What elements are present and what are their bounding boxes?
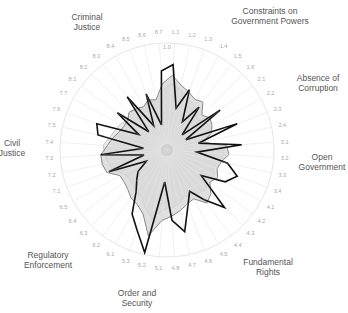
- ring-value-label: 1.0: [163, 44, 171, 50]
- spoke-label: 3.3: [278, 172, 286, 178]
- category-label: Order andSecurity: [118, 288, 157, 308]
- spoke-label: 4.5: [220, 251, 228, 257]
- category-label: CivilJustice: [0, 138, 25, 158]
- spoke-label: 8.6: [138, 32, 146, 38]
- category-label: OpenGovernment: [299, 152, 346, 172]
- spoke-label: 6.1: [107, 251, 115, 257]
- spoke-label: 4.2: [258, 218, 266, 224]
- spoke-label: 6.4: [69, 218, 77, 224]
- spoke-label: 7.3: [45, 155, 53, 161]
- spoke-label: 3.1: [281, 139, 289, 145]
- spoke-label: 8.7: [155, 29, 163, 35]
- spoke-label: 1.3: [204, 36, 212, 42]
- spoke-label: 4.8: [172, 265, 180, 271]
- spoke-label: 2.4: [278, 122, 286, 128]
- spoke-label: 1.4: [220, 43, 228, 49]
- spoke-label: 3.2: [281, 155, 289, 161]
- spoke-label: 7.5: [48, 122, 56, 128]
- category-label: RegulatoryEnforcement: [24, 250, 73, 270]
- spoke-label: 4.6: [204, 258, 212, 264]
- spoke-label: 4.7: [188, 262, 196, 268]
- center-dot: [161, 144, 173, 156]
- spoke-label: 6.3: [80, 230, 88, 236]
- spoke-label: 4.4: [234, 242, 242, 248]
- spoke-label: 1.5: [234, 53, 242, 59]
- category-label: FundamentalRights: [243, 257, 293, 277]
- spoke-label: 1.1: [172, 29, 180, 35]
- spoke-label: 1.6: [247, 64, 255, 70]
- category-label: Absence ofCorruption: [297, 73, 340, 93]
- spoke-label: 7.1: [53, 188, 61, 194]
- spoke-label: 2.2: [267, 90, 275, 96]
- spoke-label: 6.2: [92, 242, 100, 248]
- radar-series: [97, 65, 242, 253]
- spoke-label: 5.3: [122, 258, 130, 264]
- spoke-label: 8.5: [122, 36, 130, 42]
- spoke-label: 7.7: [60, 90, 68, 96]
- spoke-label: 4.1: [267, 204, 275, 210]
- spoke-label: 3.4: [274, 188, 282, 194]
- category-label: CriminalJustice: [71, 12, 102, 32]
- spoke-label: 6.5: [60, 204, 68, 210]
- spoke-label: 5.2: [138, 262, 146, 268]
- spoke-label: 4.3: [247, 230, 255, 236]
- spoke-label: 2.1: [258, 76, 266, 82]
- radar-chart: 1.0 1.11.21.31.41.51.62.12.22.32.43.13.2…: [0, 0, 348, 313]
- spoke-label: 5.1: [155, 265, 163, 271]
- spoke-label: 7.2: [48, 172, 56, 178]
- spoke-label: 1.2: [188, 32, 196, 38]
- spoke-label: 7.6: [53, 106, 61, 112]
- category-label: Constraints onGovernment Powers: [231, 6, 308, 26]
- spoke-label: 8.1: [69, 76, 77, 82]
- spoke-label: 7.4: [45, 139, 53, 145]
- spoke-label: 8.3: [92, 53, 100, 59]
- spoke-label: 2.3: [274, 106, 282, 112]
- spoke-label: 8.2: [80, 64, 88, 70]
- spoke-label: 8.4: [107, 43, 115, 49]
